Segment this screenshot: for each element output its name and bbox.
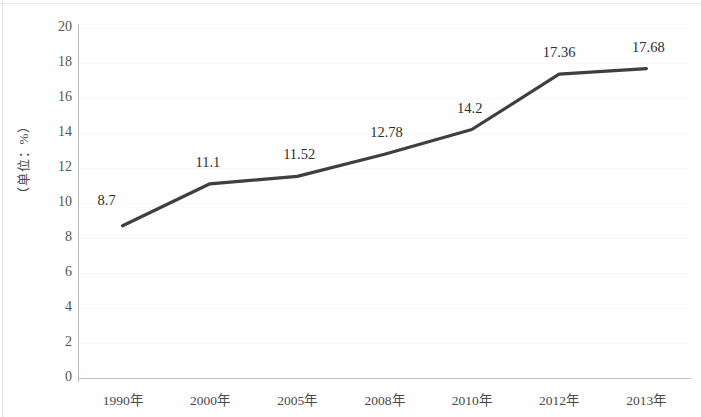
data-point-label: 8.7 — [67, 192, 147, 209]
y-tick-label: 6 — [42, 265, 72, 279]
y-tick-label: 0 — [42, 370, 72, 384]
gridline — [79, 308, 690, 309]
plot-area — [79, 28, 690, 378]
gridline — [79, 273, 690, 274]
x-tick-label: 1990年 — [78, 389, 168, 409]
y-tick-label: 2 — [42, 335, 72, 349]
x-axis-line — [79, 378, 691, 379]
y-tick-label: 20 — [42, 20, 72, 34]
x-tick-label: 2013年 — [601, 389, 691, 409]
data-point-label: 12.78 — [347, 124, 427, 141]
y-tick-label: 4 — [42, 300, 72, 314]
y-tick-label: 16 — [42, 90, 72, 104]
y-tick-label: 14 — [42, 125, 72, 139]
gridline — [79, 98, 690, 99]
data-point-label: 11.52 — [259, 146, 339, 163]
x-tick-label: 2008年 — [340, 389, 430, 409]
y-axis-title: （单位：%） — [13, 100, 32, 220]
scan-edge-left — [2, 0, 3, 417]
data-point-label: 17.68 — [608, 39, 688, 56]
gridline — [79, 238, 690, 239]
gridline — [79, 28, 690, 29]
y-tick-label: 8 — [42, 230, 72, 244]
y-tick-label: 12 — [42, 160, 72, 174]
x-tick-label: 2012年 — [514, 389, 604, 409]
scan-edge-top — [0, 3, 701, 4]
data-point-label: 14.2 — [430, 100, 510, 117]
x-tick-label: 2010年 — [427, 389, 517, 409]
gridline — [79, 203, 690, 204]
x-tick-label: 2005年 — [252, 389, 342, 409]
chart-page: （单位：%） 20181614121086420 1990年2000年2005年… — [0, 0, 701, 417]
x-tick-label: 2000年 — [165, 389, 255, 409]
y-tick-label: 18 — [42, 55, 72, 69]
data-point-label: 17.36 — [519, 44, 599, 61]
gridline — [79, 343, 690, 344]
gridline — [79, 63, 690, 64]
data-point-label: 11.1 — [168, 154, 248, 171]
